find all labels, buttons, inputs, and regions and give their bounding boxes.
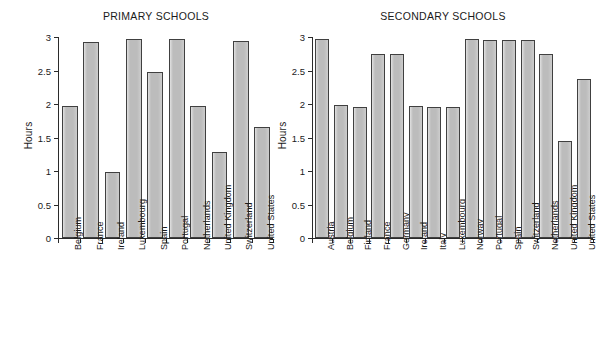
y-axis-tick-label: 1.5 (278, 132, 305, 143)
x-axis-tick-label: Belgium (73, 217, 83, 250)
y-axis-tick-mark (308, 171, 312, 172)
y-axis-tick-label: 3 (278, 32, 305, 43)
x-axis-tick-label: Luxembourg (137, 199, 147, 250)
y-axis-tick-label: 2 (24, 99, 51, 110)
y-axis-tick-label: 0.5 (278, 199, 305, 210)
bar (147, 72, 163, 238)
y-axis-tick-mark (308, 104, 312, 105)
bar (483, 40, 497, 238)
y-axis-tick-mark (308, 138, 312, 139)
y-axis-tick-mark (54, 205, 58, 206)
bar (427, 107, 441, 238)
y-axis-tick-mark (308, 71, 312, 72)
y-axis-tick-label: 1.5 (24, 132, 51, 143)
y-axis-tick-mark (54, 104, 58, 105)
y-axis-line (312, 37, 313, 239)
x-axis-tick-label: Ireland (116, 222, 126, 250)
bar (390, 54, 404, 238)
x-axis-tick-mark (312, 239, 313, 243)
y-axis-tick-mark (54, 171, 58, 172)
y-axis-tick-mark (54, 71, 58, 72)
y-axis-tick-label: 0.5 (24, 199, 51, 210)
x-axis-tick-label: Spain (159, 226, 169, 250)
x-axis-tick-mark (58, 239, 59, 243)
x-axis-tick-label: United Kingdom (223, 185, 233, 250)
x-axis-tick-label: United States (587, 195, 597, 250)
y-axis-tick-label: 2 (278, 99, 305, 110)
y-axis-tick-mark (54, 37, 58, 38)
bar (83, 42, 99, 238)
x-axis-tick-label: Portugal (180, 216, 190, 250)
x-axis-tick-label: Netherlands (202, 200, 212, 250)
y-axis-line (58, 37, 59, 239)
y-axis-tick-label: 0 (278, 233, 305, 244)
bar (371, 54, 385, 238)
chart-panel-secondary-schools: SECONDARY SCHOOLS Hours 00.511.522.53Aus… (252, 0, 606, 339)
y-axis-tick-label: 1 (24, 166, 51, 177)
bar (315, 39, 329, 238)
bar (502, 40, 516, 238)
bar (169, 39, 185, 238)
y-axis-tick-mark (308, 205, 312, 206)
y-axis-tick-label: 0 (24, 233, 51, 244)
y-axis-tick-mark (54, 138, 58, 139)
x-axis-tick-label: France (95, 221, 105, 250)
y-axis-tick-label: 2.5 (24, 65, 51, 76)
y-axis-tick-mark (308, 37, 312, 38)
bar (409, 106, 423, 238)
chart-title-secondary: SECONDARY SCHOOLS (266, 10, 606, 22)
y-axis-tick-label: 3 (24, 32, 51, 43)
bar (353, 107, 367, 238)
bar (465, 39, 479, 238)
y-axis-tick-label: 2.5 (278, 65, 305, 76)
figure-two-bar-charts: PRIMARY SCHOOLS Hours 00.511.522.53Belgi… (0, 0, 606, 339)
y-axis-tick-label: 1 (278, 166, 305, 177)
